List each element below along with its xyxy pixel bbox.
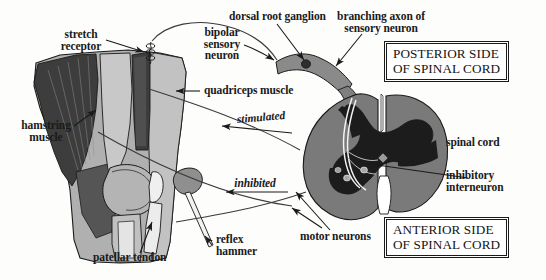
motor-neuron-soma-a — [344, 175, 351, 181]
diagram-canvas: stretch receptor bipolar sensory neuron … — [0, 0, 546, 280]
label-patellar-tendon: patellar tendon — [93, 252, 203, 264]
label-quadriceps-muscle: quadriceps muscle — [204, 85, 314, 97]
callout-anterior-line2: OF SPINAL CORD — [393, 237, 500, 252]
label-reflex-hammer: reflex hammer — [216, 234, 270, 257]
arrow-dorsal-root-ganglion — [277, 24, 304, 60]
posterior-median-sulcus — [381, 94, 383, 132]
motor-neuron-soma-b — [335, 167, 341, 172]
label-hamstring-muscle: hamstring muscle — [14, 120, 78, 143]
label-inhibited: inhibited — [224, 178, 286, 190]
callout-posterior-line1: POSTERIOR SIDE — [393, 46, 500, 61]
callout-anterior-side: ANTERIOR SIDE OF SPINAL CORD — [384, 217, 509, 258]
leg-cross-section — [34, 42, 186, 263]
callout-posterior-inner: POSTERIOR SIDE OF SPINAL CORD — [386, 43, 507, 80]
label-branching-axon: branching axon of sensory neuron — [322, 11, 440, 34]
label-inhibitory-interneuron: inhibitory interneuron — [446, 170, 532, 193]
arrow-motor-neurons-b — [292, 208, 322, 228]
label-bipolar-sensory-neuron: bipolar sensory neuron — [196, 27, 248, 62]
label-spinal-cord: spinal cord — [446, 137, 526, 149]
dorsal-root-ganglion-node — [301, 60, 310, 68]
callout-anterior-inner: ANTERIOR SIDE OF SPINAL CORD — [386, 219, 507, 256]
label-stretch-receptor: stretch receptor — [52, 29, 110, 52]
reflex-hammer-icon — [173, 168, 213, 247]
arrow-stimulated — [222, 126, 292, 133]
callout-posterior-line2: OF SPINAL CORD — [393, 61, 500, 76]
arrow-branching-axon — [336, 34, 362, 66]
callout-posterior-side: POSTERIOR SIDE OF SPINAL CORD — [384, 41, 509, 82]
quadriceps-highlight — [134, 56, 146, 146]
arrow-bipolar-sensory-neuron — [244, 45, 274, 60]
callout-anterior-line1: ANTERIOR SIDE — [393, 222, 500, 237]
label-motor-neurons: motor neurons — [300, 231, 396, 243]
inhibitory-interneuron-soma — [361, 167, 368, 173]
anterior-median-fissure — [377, 176, 391, 214]
